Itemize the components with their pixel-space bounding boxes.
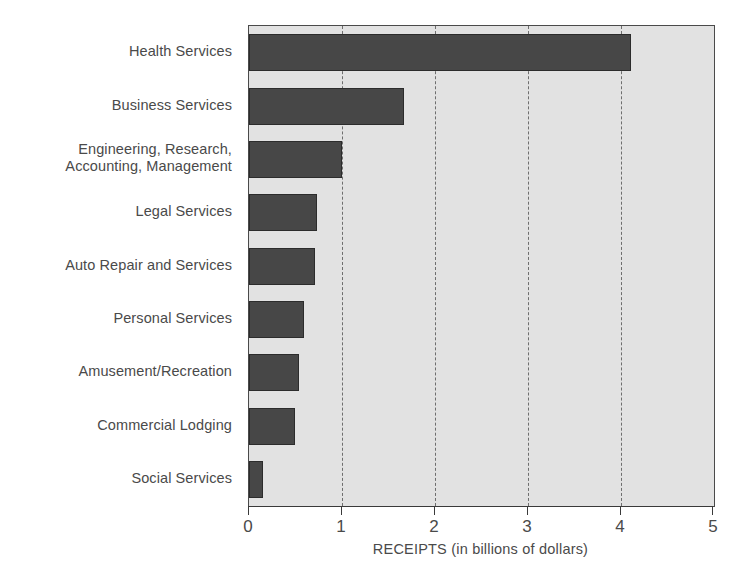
x-tick-label: 2	[414, 517, 454, 537]
bar	[249, 248, 315, 285]
bar-chart: Health ServicesBusiness ServicesEngineer…	[0, 0, 731, 570]
category-label: Social Services	[0, 470, 232, 487]
bar	[249, 461, 263, 498]
x-tick-label: 1	[321, 517, 361, 537]
category-label: Amusement/Recreation	[0, 363, 232, 380]
x-tick	[527, 506, 528, 515]
bar	[249, 354, 299, 391]
category-label: Auto Repair and Services	[0, 257, 232, 274]
category-label: Personal Services	[0, 310, 232, 327]
x-tick-label: 0	[228, 517, 268, 537]
bar	[249, 301, 304, 338]
category-label: Health Services	[0, 43, 232, 60]
x-axis-title: RECEIPTS (in billions of dollars)	[248, 541, 713, 557]
x-tick	[620, 506, 621, 515]
x-tick-label: 4	[600, 517, 640, 537]
category-label: Legal Services	[0, 203, 232, 220]
plot-area	[248, 25, 715, 507]
x-tick-label: 5	[693, 517, 731, 537]
bar	[249, 34, 631, 71]
x-tick	[712, 506, 713, 515]
x-axis: 012345	[248, 506, 713, 507]
bar	[249, 141, 342, 178]
category-label: Business Services	[0, 97, 232, 114]
category-label: Engineering, Research, Accounting, Manag…	[0, 141, 232, 175]
bar	[249, 88, 404, 125]
category-label: Commercial Lodging	[0, 417, 232, 434]
x-tick	[434, 506, 435, 515]
bar-series	[249, 26, 714, 506]
x-tick	[341, 506, 342, 515]
bar	[249, 194, 317, 231]
x-tick	[248, 506, 249, 515]
x-tick-label: 3	[507, 517, 547, 537]
y-axis-category-labels: Health ServicesBusiness ServicesEngineer…	[0, 25, 240, 505]
bar	[249, 408, 295, 445]
